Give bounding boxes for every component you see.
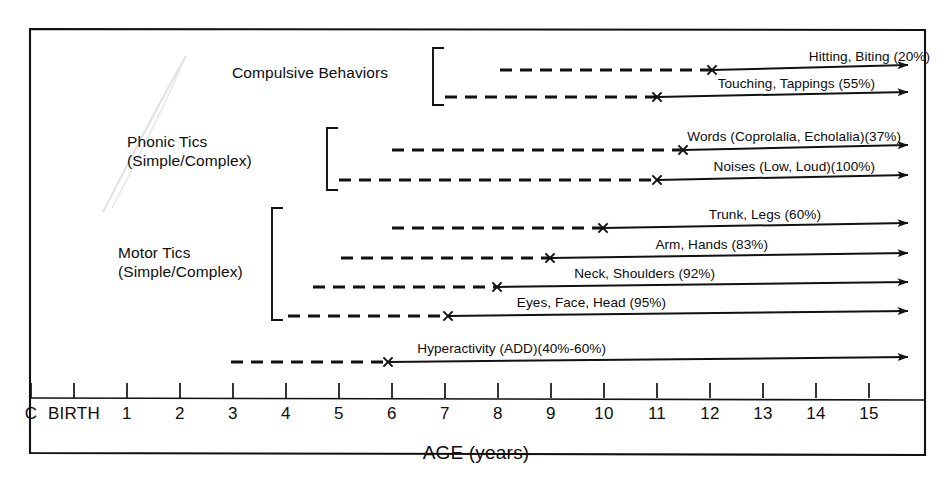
row-label-hyperactivity-add: Hyperactivity (ADD)(40%-60%) [417,341,606,356]
timeline-row-touching-tappings [445,92,908,102]
continuation-arrow [657,92,908,97]
axis-tick-label: 11 [648,404,666,424]
axis-tick-label: 10 [594,404,614,424]
axis-tick-label: 6 [387,404,397,424]
axis-title: AGE (years) [0,442,952,464]
axis-tick-label: 15 [859,404,879,424]
row-label-words-coprolalia-echolalia: Words (Coprolalia, Echolalia)(37%) [687,129,901,144]
continuation-arrow [603,223,908,228]
group-brackets [272,48,444,320]
row-label-neck-shoulders: Neck, Shoulders (92%) [574,266,715,281]
figure-frame [30,29,925,455]
axis-tick-label: 1 [122,404,132,424]
figure-canvas: CBIRTH123456789101112131415Compulsive Be… [0,0,952,486]
axis-tick-label: 7 [440,404,450,424]
axis-tick-label: 2 [175,404,185,424]
timeline-row-trunk-legs [392,223,908,233]
continuation-arrow [657,175,908,180]
continuation-arrow [388,357,908,362]
axis-tick-label: 12 [700,404,720,424]
continuation-arrow [683,145,908,150]
timeline-row-hyperactivity-add [231,357,908,367]
timeline-row-words-coprolalia-echolalia [392,145,908,155]
row-label-arm-hands: Arm, Hands (83%) [655,237,768,252]
group-bracket-motor-tics [272,208,283,320]
axis-tick-label: 9 [546,404,556,424]
age-axis [30,383,925,400]
axis-tick-label: C [25,404,38,424]
timeline-row-noises-low-loud [339,175,908,185]
timeline-row-arm-hands [341,253,908,263]
timeline-row-eyes-face-head [288,311,908,321]
continuation-arrow [497,282,908,287]
row-label-eyes-face-head: Eyes, Face, Head (95%) [517,295,666,310]
continuation-arrow [448,311,908,316]
row-label-trunk-legs: Trunk, Legs (60%) [709,207,821,222]
axis-tick-label: BIRTH [48,404,100,424]
axis-tick-label: 3 [228,404,238,424]
timeline-row-neck-shoulders [313,282,908,292]
timeline-row-hitting-biting [500,65,908,75]
axis-tick-label: 5 [334,404,344,424]
group-label-phonic-tics: Phonic Tics (Simple/Complex) [127,132,252,170]
axis-tick-label: 14 [806,404,826,424]
group-bracket-compulsive-behaviors [433,48,444,105]
row-label-touching-tappings: Touching, Tappings (55%) [718,76,875,91]
continuation-arrow [712,65,908,70]
axis-tick-label: 4 [281,404,291,424]
axis-tick-label: 13 [753,404,773,424]
group-label-motor-tics: Motor Tics (Simple/Complex) [118,243,243,281]
group-label-compulsive-behaviors: Compulsive Behaviors [232,63,388,82]
group-bracket-phonic-tics [327,128,338,190]
axis-tick-label: 8 [493,404,503,424]
row-label-noises-low-loud: Noises (Low, Loud)(100%) [714,159,875,174]
continuation-arrow [550,253,908,258]
row-label-hitting-biting: Hitting, Biting (20%) [809,49,930,64]
